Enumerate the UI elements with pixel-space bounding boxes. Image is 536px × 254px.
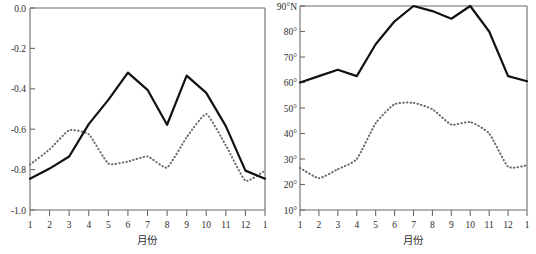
right-xtick-5: 5 xyxy=(373,220,378,230)
left-xtick-2: 2 xyxy=(47,220,52,230)
left-xtick-10: 10 xyxy=(202,220,212,230)
figure-two-panel-line-charts: 0.0 -0.2 -0.4 -0.6 -0.8 -1.0 xyxy=(0,0,536,254)
left-series-dotted xyxy=(30,114,265,181)
right-xtick-12: 12 xyxy=(503,220,513,230)
right-xtick-10: 10 xyxy=(466,220,476,230)
right-xtick-3: 3 xyxy=(335,220,340,230)
right-chart-panel: 90°N 80° 70° 60° 50° 40° 30° 20° 10° xyxy=(268,0,536,254)
figure-caption-cropped xyxy=(280,245,530,254)
left-x-axis-labels: 1 2 3 4 5 6 7 8 9 10 11 12 1 xyxy=(28,220,268,230)
left-chart-svg: 0.0 -0.2 -0.4 -0.6 -0.8 -1.0 xyxy=(0,0,268,254)
right-chart-svg: 90°N 80° 70° 60° 50° 40° 30° 20° 10° xyxy=(268,0,536,254)
left-y-axis-ticks xyxy=(30,8,35,210)
right-xtick-1: 1 xyxy=(298,220,303,230)
right-ytick-2: 70° xyxy=(284,53,298,63)
left-xtick-1: 1 xyxy=(28,220,33,230)
left-ytick-2: -0.4 xyxy=(11,84,26,94)
right-ytick-0: 90°N xyxy=(277,2,297,12)
right-y-axis-ticks xyxy=(300,6,305,210)
left-chart-panel: 0.0 -0.2 -0.4 -0.6 -0.8 -1.0 xyxy=(0,0,268,254)
left-xtick-4: 4 xyxy=(86,220,91,230)
left-x-axis-title: 月份 xyxy=(137,235,158,246)
right-xtick-7: 7 xyxy=(411,220,416,230)
right-ytick-7: 20° xyxy=(284,180,298,190)
left-y-axis-labels: 0.0 -0.2 -0.4 -0.6 -0.8 -1.0 xyxy=(11,4,26,216)
left-xtick-13: 1 xyxy=(263,220,268,230)
left-xtick-11: 11 xyxy=(221,220,230,230)
left-xtick-12: 12 xyxy=(241,220,251,230)
right-xtick-11: 11 xyxy=(485,220,494,230)
right-x-axis-labels: 1 2 3 4 5 6 7 8 9 10 11 12 1 xyxy=(298,220,530,230)
left-ytick-4: -0.8 xyxy=(11,165,26,175)
left-x-axis-ticks xyxy=(30,210,265,216)
right-ytick-1: 80° xyxy=(284,27,298,37)
left-ytick-5: -1.0 xyxy=(11,206,26,216)
right-xtick-8: 8 xyxy=(430,220,435,230)
left-xtick-5: 5 xyxy=(106,220,111,230)
right-xtick-2: 2 xyxy=(317,220,322,230)
right-ytick-6: 30° xyxy=(284,155,298,165)
right-series-solid xyxy=(300,6,527,83)
right-ytick-8: 10° xyxy=(284,206,298,216)
right-ytick-3: 60° xyxy=(284,78,298,88)
right-x-axis-ticks xyxy=(300,210,527,216)
left-ytick-3: -0.6 xyxy=(11,125,26,135)
right-y-axis-labels: 90°N 80° 70° 60° 50° 40° 30° 20° 10° xyxy=(277,2,297,216)
right-series-dotted xyxy=(300,103,527,179)
left-xtick-7: 7 xyxy=(145,220,150,230)
left-series-solid xyxy=(30,73,265,179)
left-xtick-6: 6 xyxy=(126,220,131,230)
left-ytick-1: -0.2 xyxy=(11,44,26,54)
right-ytick-4: 50° xyxy=(284,104,298,114)
right-ytick-5: 40° xyxy=(284,129,298,139)
left-xtick-9: 9 xyxy=(184,220,189,230)
left-ytick-0: 0.0 xyxy=(14,4,26,14)
right-xtick-9: 9 xyxy=(449,220,454,230)
left-xtick-8: 8 xyxy=(165,220,170,230)
right-xtick-13: 1 xyxy=(525,220,530,230)
right-plot-frame xyxy=(300,6,527,210)
right-xtick-6: 6 xyxy=(392,220,397,230)
left-plot-frame xyxy=(30,8,265,210)
left-xtick-3: 3 xyxy=(67,220,72,230)
right-xtick-4: 4 xyxy=(354,220,359,230)
